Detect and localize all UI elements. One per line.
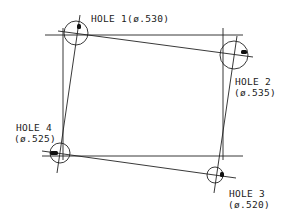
hole-3-label: HOLE 3 (229, 189, 265, 199)
hole-4-center-marker (50, 151, 58, 155)
actual-right-line (214, 36, 237, 193)
hole-3-diameter: (ø.520) (228, 200, 270, 210)
hole-4-label: HOLE 4 (16, 123, 52, 133)
hole-3-center-marker (220, 172, 224, 177)
hole-2-center-marker (241, 50, 247, 54)
hole-2-diameter: (ø.535) (234, 88, 276, 98)
hole-2-label: HOLE 2 (235, 77, 271, 87)
actual-left-line (57, 15, 80, 173)
hole-1-label: HOLE 1(ø.530) (91, 14, 169, 24)
hole-4-diameter: (ø.525) (14, 134, 56, 144)
hole-1-center-marker (77, 24, 81, 29)
